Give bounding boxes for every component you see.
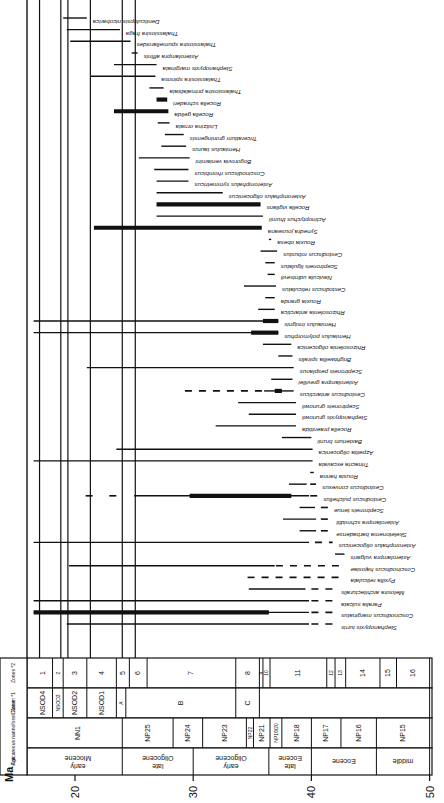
nanno-zone-label: NP24 [184,724,191,742]
column-header: Calcareous nannofossil Zone [10,700,16,765]
species-row: Rouxia granda [265,298,321,306]
species-row: Denticulopsis nicobarica [63,18,159,26]
species-row: Rocella schraderi [157,100,221,108]
species-row: Asterolampra affinis [132,53,200,61]
species-label: Bogorovia veniamini [195,159,251,166]
species-row: Coscinodiscus hajosiae [69,566,415,574]
numbered-zone-label: 3 [71,671,78,675]
numbered-zone-label: 14 [359,669,366,677]
species-row: Stephanopyxis turris [67,624,397,632]
species-label: Triceratium groningensis [190,136,257,143]
age-label-part: early [223,762,239,770]
species-label: Sceptroneis ligulatus [281,264,338,271]
column-header: Zones *2 [10,663,16,683]
boundary-lines [27,0,135,680]
species-row: Navicula udintsevii [268,274,332,282]
species-label: Hemiaulus polymorphus [284,334,350,341]
species-row: Rouxia obesa [269,239,315,247]
species-row: Cestodiscus robustus [261,251,343,259]
diatom-zone-label: B [177,700,184,705]
numbered-zone-label: 5 [119,671,126,675]
species-label: Trinacria excavata [318,462,369,469]
species-label: Asterolampra vulgaris [350,555,411,562]
species-label: Asterolampra affinis [144,54,200,61]
species-row: Asterolampra schmidtii [283,519,400,527]
species-row: Melosira architecturalis [249,589,405,597]
age-cell-label: middle [393,758,414,765]
species-label: Skeletonema barbadense [336,532,407,539]
species-label: Melosira architecturalis [341,590,404,597]
species-row: Thalassiosira spumellaroides [70,41,216,49]
species-row: Sceptroneis tenue [300,507,384,515]
species-label: Rouxia granda [280,299,321,306]
nanno-zone-label: NP21 [258,724,265,742]
species-row: Asterolampra vulgaris [335,554,411,562]
numbered-zone-label: 2 [55,671,61,674]
species-label: Synedra jouseana [267,229,317,236]
species-row: Cestodiscus convexus [289,484,384,492]
species-label: Rouxia obesa [277,240,315,247]
numbered-zone-band [27,658,432,688]
diatom-zone-label: NSOD2 [71,691,78,715]
species-layer: Denticulopsis nicobaricaThalassiosira fr… [34,18,417,632]
nanno-zone-label: NP25 [144,724,151,742]
species-label: Rocella gelida [174,112,213,119]
species-row: Rouxia hanna [310,473,358,481]
species-row: Rhizosolenia antarctica [258,309,345,317]
zone-header: 12345678910111213141516NSOD4NSOD3NSOD2NS… [0,658,432,775]
axis-label: Ma [3,766,15,782]
species-row: Asteromphalus oligocenicus [34,542,417,550]
numbered-zone-label: 8 [244,671,251,675]
species-label: Actinoptychus thumii [268,217,326,224]
species-row: Sceptroneis ligulatus [265,263,338,271]
species-label: Sceptroneis grunowii [301,404,359,411]
species-label: Rocella vigilans [267,205,310,212]
numbered-zone-label: 11 [294,669,301,676]
species-label: Thalassiosira spumellaroides [137,42,217,49]
species-row: Thalassiosira spinosa [90,76,221,84]
species-row: Hemiaulus insignis [34,321,336,329]
species-row: Coscinodiscus rhombicus [154,170,264,178]
species-label: Thalassiosira primalabiata [169,89,241,96]
numbered-zone-label: 10 [263,670,269,676]
species-label: Hemiaulus insignis [284,322,336,329]
species-label: Coscinodiscus rhombicus [194,171,264,178]
species-row: Lisitzina ornata [158,123,217,131]
axis-tick-label: 40 [305,786,317,798]
species-label: Azpeitia oligocenica [318,450,374,457]
species-label: Paralia sulcata [340,602,381,609]
species-label: Baxterium brunii [317,439,362,446]
species-label: Rocella praenitida [301,427,351,434]
species-label: Lisitzina ornata [175,124,217,131]
numbered-zone-label: 4 [98,671,105,675]
species-row: Hemiaulus taurus [161,146,240,154]
species-label: Asteromphalus symmetricus [194,182,273,189]
species-label: Asteromphalus oligocenicus [339,543,417,550]
species-row: Synedra jouseana [94,228,318,236]
species-row: Brightwellia spiralis [278,356,351,364]
nanno-zone-label: NP17 [322,724,329,742]
species-label: Coscinodiscus marginatus [341,613,413,620]
species-row: Rocella vigilans [157,204,310,212]
age-label-part: Oligocene [142,754,174,762]
age-label-part: early [70,762,86,770]
species-label: Rhizosolenia oligocenica [297,345,366,352]
age-label-part: Miocene [65,755,92,762]
numbered-zone-label: 16 [409,669,416,677]
age-label-part: late [284,763,295,770]
nanno-zone-label: NP22 [247,727,253,740]
species-row: Stephanopyxis grunowii [249,414,368,422]
species-row: Triceratium groningensis [165,135,257,143]
species-label: Sceptroneis tenue [333,508,383,515]
numbered-zone-label: 13 [337,670,343,676]
species-row: Asteromphalus symmetricus [157,181,274,189]
species-label: Navicula udintsevii [280,275,332,282]
species-row: Asterolampra grevillei [271,379,359,387]
species-row: Cestodiscus reticulatus [244,286,346,294]
age-cell-label: Eocene [332,758,356,765]
species-label: Thalassiosira spinosa [161,77,221,84]
species-row: Hemiaulus polymorphus [34,333,351,341]
diatom-zone-label: NSOD4 [39,691,46,715]
species-row: Baxterium brunii [282,438,362,446]
numbered-zone-label: 15 [384,669,391,677]
